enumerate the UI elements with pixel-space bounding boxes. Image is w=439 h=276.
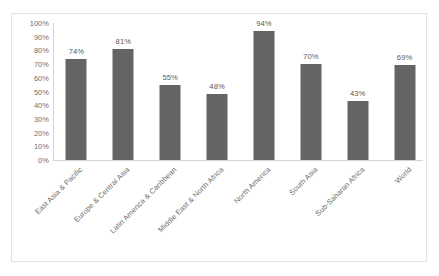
plot-area: 100%90%80%70%60%50%40%30%20%10%0% 74%Eas… (53, 23, 428, 161)
bar-group: 69%World (381, 23, 428, 160)
chart-container: 100%90%80%70%60%50%40%30%20%10%0% 74%Eas… (11, 13, 427, 262)
bar (113, 49, 134, 160)
x-tick-label: East Asia & Pacific (34, 165, 85, 216)
bar-group: 70%South Asia (287, 23, 334, 160)
bar (207, 94, 228, 160)
bar-value-label: 55% (162, 73, 178, 82)
y-tick-label: 70% (34, 60, 49, 69)
y-tick-label: 100% (30, 19, 49, 28)
bar (347, 101, 368, 160)
bar-group: 55%Latin America & Caribbean (147, 23, 194, 160)
y-tick-label: 60% (34, 73, 49, 82)
bar (300, 64, 321, 160)
y-tick-label: 40% (34, 101, 49, 110)
bar-value-label: 74% (69, 47, 85, 56)
bar-group: 81%Europe & Central Asia (100, 23, 147, 160)
bar-value-label: 81% (116, 37, 132, 46)
x-axis-line (53, 160, 423, 161)
y-tick-label: 50% (34, 87, 49, 96)
y-tick-label: 30% (34, 114, 49, 123)
x-tick-label: North America (232, 165, 272, 205)
bar-value-label: 43% (350, 89, 366, 98)
bar (66, 59, 87, 160)
y-tick-label: 20% (34, 128, 49, 137)
bar (160, 85, 181, 160)
bar-value-label: 94% (256, 19, 272, 28)
bar-group: 48%Middle East & North Africa (194, 23, 241, 160)
x-tick-label: World (393, 165, 413, 185)
bar-value-label: 69% (397, 53, 413, 62)
x-tick-label: South Asia (287, 165, 319, 197)
y-tick-label: 10% (34, 142, 49, 151)
bar-group: 94%North America (241, 23, 288, 160)
bar-value-label: 48% (209, 82, 225, 91)
x-tick-label: Sub-Saharan Africa (313, 165, 366, 218)
y-tick-label: 0% (38, 156, 49, 165)
bar-group: 74%East Asia & Pacific (53, 23, 100, 160)
bar-group: 43%Sub-Saharan Africa (334, 23, 381, 160)
bar (253, 31, 274, 160)
bar-value-label: 70% (303, 52, 319, 61)
y-tick-label: 90% (34, 32, 49, 41)
bar (394, 65, 415, 160)
y-tick-label: 80% (34, 46, 49, 55)
